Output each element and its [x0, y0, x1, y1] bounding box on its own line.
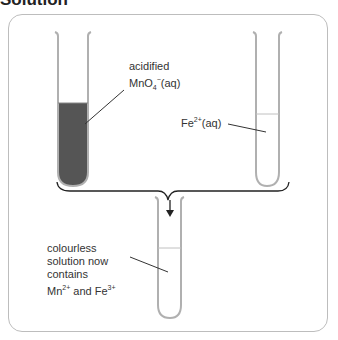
right-tube-label: Fe2+(aq) [181, 113, 221, 130]
left-tube-label: acidified MnO4−(aq) [129, 60, 180, 94]
bottom-pointer-line [130, 257, 168, 272]
left-test-tube [55, 32, 91, 186]
arrow-head-icon [166, 210, 174, 217]
left-pointer-line [85, 90, 124, 124]
right-pointer-line [228, 124, 266, 132]
brace [57, 182, 289, 200]
right-test-tube [253, 32, 282, 186]
bottom-tube-label: colourless solution now contains Mn2+ an… [47, 242, 116, 298]
